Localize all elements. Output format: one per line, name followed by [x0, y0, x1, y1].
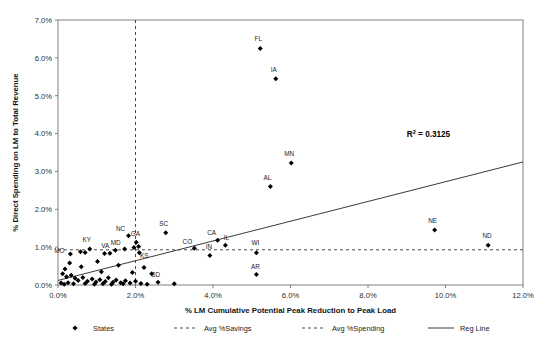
data-point-marker [268, 184, 273, 189]
data-point-marker [68, 251, 73, 256]
x-axis-tick-labels: 0.0%2.0%4.0%6.0%8.0%10.0%12.0% [49, 285, 534, 300]
y-tick-label: 4.0% [35, 129, 53, 138]
data-point-marker [145, 282, 150, 287]
data-point-label: CA [207, 229, 217, 236]
y-tick-label: 1.0% [35, 243, 53, 252]
y-tick-label: 0.0% [35, 281, 53, 290]
r-squared-text: R2 = 0.3125 [407, 129, 451, 139]
data-point-marker [106, 275, 111, 280]
data-point-marker [71, 281, 76, 286]
data-point-marker [134, 240, 139, 245]
data-point-marker [215, 238, 220, 243]
data-point-label: MO [54, 247, 64, 254]
data-point-marker [172, 281, 177, 286]
data-point-label: AR [251, 263, 260, 270]
data-point-marker [116, 263, 121, 268]
data-point-marker [163, 230, 168, 235]
y-tick-label: 5.0% [35, 92, 53, 101]
y-tick-label: 7.0% [35, 16, 53, 25]
data-point-marker [90, 276, 95, 281]
data-point-marker [289, 161, 294, 166]
data-point-label: IA [271, 66, 278, 73]
data-point-marker [207, 253, 212, 258]
data-point-marker [95, 259, 100, 264]
data-point-marker [107, 251, 112, 256]
x-tick-label: 0.0% [49, 291, 67, 300]
scatter-chart: 0.0%1.0%2.0%3.0%4.0%5.0%6.0%7.0% 0.0%2.0… [0, 0, 542, 351]
legend-label-reg-line: Reg Line [460, 324, 490, 333]
regression-line [58, 162, 523, 280]
data-point-label: CO [183, 238, 193, 245]
data-points [59, 46, 491, 287]
data-point-label: WI [251, 239, 259, 246]
data-point-marker [273, 76, 278, 81]
data-point-label: KS [140, 252, 149, 259]
x-tick-label: 10.0% [435, 291, 457, 300]
data-point-marker [486, 243, 491, 248]
data-point-label: VA [101, 242, 110, 249]
data-point-label: KY [83, 236, 92, 243]
data-point-marker [80, 275, 85, 280]
data-point-marker [67, 261, 72, 266]
axis-titles: % LM Cumulative Potential Peak Reduction… [11, 73, 396, 315]
data-point-marker [97, 277, 102, 282]
x-tick-label: 6.0% [282, 291, 300, 300]
data-point-label: MD [111, 239, 121, 246]
data-point-marker [155, 280, 160, 285]
data-point-marker [258, 46, 263, 51]
data-point-marker [133, 279, 138, 284]
legend-label-avg-spending: Avg %Spending [332, 324, 384, 333]
data-point-labels: FLIAMNALNENDSCNCGACAILCOINWIARSDKYVAMDMO… [54, 35, 492, 277]
x-tick-label: 2.0% [127, 291, 145, 300]
y-tick-label: 3.0% [35, 167, 53, 176]
y-axis-title: % Direct Spending on LM to Total Revenue [11, 73, 20, 232]
r-squared-value: = 0.3125 [416, 130, 451, 139]
data-point-label: SC [159, 220, 168, 227]
data-point-marker [136, 244, 141, 249]
data-point-marker [79, 264, 84, 269]
data-point-marker [102, 251, 107, 256]
r-squared-annotation: R2 = 0.3125 [407, 129, 451, 139]
y-tick-label: 6.0% [35, 54, 53, 63]
data-point-marker [223, 243, 228, 248]
data-point-marker [432, 228, 437, 233]
x-tick-label: 4.0% [204, 291, 222, 300]
data-point-marker [87, 247, 92, 252]
data-point-marker [62, 267, 67, 272]
data-point-marker [83, 250, 88, 255]
chart-legend: StatesAvg %SavingsAvg %SpendingReg Line [72, 324, 489, 333]
data-point-label: GA [131, 230, 141, 237]
data-point-marker [142, 265, 147, 270]
data-point-label: ND [483, 232, 493, 239]
data-point-label: MN [284, 150, 294, 157]
data-point-marker [254, 272, 259, 277]
legend-marker-states [72, 325, 77, 330]
scatter-chart-container: 0.0%1.0%2.0%3.0%4.0%5.0%6.0%7.0% 0.0%2.0… [0, 0, 542, 351]
data-point-label: IL [224, 234, 230, 241]
data-point-marker [254, 250, 259, 255]
data-point-marker [113, 248, 118, 253]
data-point-marker [130, 270, 135, 275]
data-point-label: NE [428, 217, 437, 224]
data-point-label: AL [263, 174, 271, 181]
legend-label-states: States [93, 324, 114, 333]
data-point-marker [60, 271, 65, 276]
data-point-label: FL [255, 35, 263, 42]
y-tick-label: 2.0% [35, 205, 53, 214]
regression-line [58, 162, 523, 280]
data-point-marker [122, 247, 127, 252]
data-point-label: NC [116, 225, 126, 232]
data-point-label: SD [151, 271, 160, 278]
x-axis-title: % LM Cumulative Potential Peak Reduction… [185, 306, 396, 315]
x-tick-label: 12.0% [512, 291, 534, 300]
data-point-label: IN [206, 243, 213, 250]
x-tick-label: 8.0% [359, 291, 377, 300]
legend-label-avg-savings: Avg %Savings [204, 324, 252, 333]
